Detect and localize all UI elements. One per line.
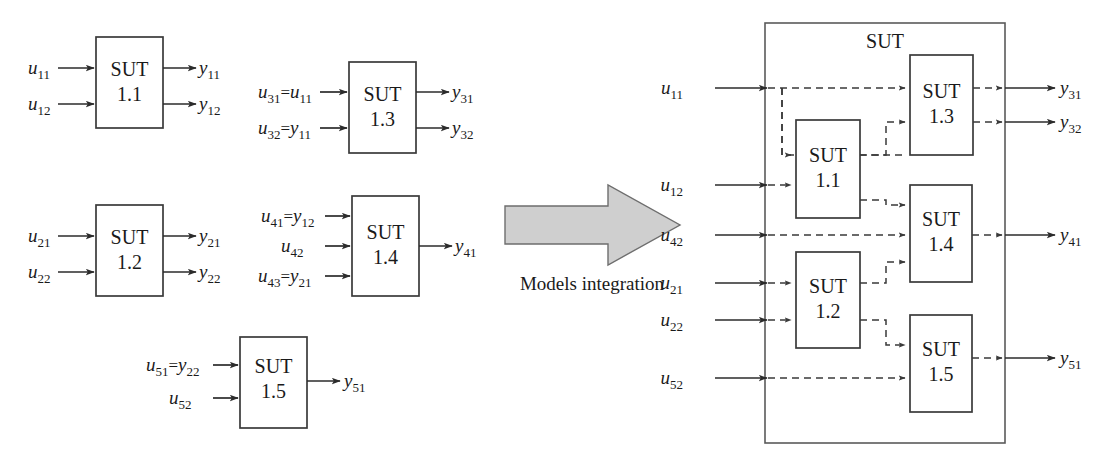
block-label-name: SUT <box>923 80 961 102</box>
label-output-y41: y41 <box>453 235 476 260</box>
label-out-y31: y31 <box>1058 77 1081 102</box>
block-label-name: SUT <box>111 226 149 248</box>
label-input-u41: u41=y12 <box>261 205 315 230</box>
left-block-sut-1-4[interactable]: SUT 1.4 <box>325 196 452 296</box>
label-out-y51: y51 <box>1058 347 1081 372</box>
left-block-sut-1-1[interactable]: SUT 1.1 <box>58 37 196 128</box>
label-out-y41: y41 <box>1058 224 1081 249</box>
label-input-u22: u22 <box>28 261 51 286</box>
diagram-canvas: SUT 1.1 u11 u12 y11 y12 SUT 1.3 u31=u11 … <box>0 0 1120 470</box>
left-block-sut-1-2[interactable]: SUT 1.2 <box>58 205 196 296</box>
block-label-name: SUT <box>111 58 149 80</box>
block-label-name: SUT <box>922 208 960 230</box>
block-label-name: SUT <box>367 221 405 243</box>
block-label-number: 1.1 <box>816 169 841 191</box>
integrated-block-sut-1-2[interactable]: SUT 1.2 <box>796 252 860 348</box>
label-input-u21: u21 <box>28 225 51 250</box>
block-label-number: 1.4 <box>373 246 398 268</box>
integrated-input-arrows <box>715 88 767 378</box>
label-output-y11: y11 <box>197 57 220 82</box>
block-label-name: SUT <box>809 275 847 297</box>
label-in-u11: u11 <box>661 77 683 102</box>
models-integration-arrow <box>505 185 680 265</box>
integrated-block-sut-1-3[interactable]: SUT 1.3 <box>910 55 973 155</box>
label-input-u12: u12 <box>28 93 51 118</box>
label-out-y32: y32 <box>1058 111 1081 136</box>
label-in-u12: u12 <box>661 174 684 199</box>
label-input-u52: u52 <box>169 387 192 412</box>
left-block-sut-1-3[interactable]: SUT 1.3 <box>320 62 449 153</box>
block-label-number: 1.3 <box>370 108 395 130</box>
left-block-sut-1-5[interactable]: SUT 1.5 <box>213 337 340 428</box>
block-label-number: 1.5 <box>261 380 286 402</box>
block-label-number: 1.2 <box>816 300 841 322</box>
models-integration-caption: Models integration <box>520 273 665 294</box>
block-label-name: SUT <box>255 355 293 377</box>
integrated-block-sut-1-4[interactable]: SUT 1.4 <box>910 185 972 282</box>
label-input-u43: u43=y21 <box>258 265 312 290</box>
label-input-u31: u31=u11 <box>258 81 312 106</box>
integrated-block-sut-1-1[interactable]: SUT 1.1 <box>796 120 860 218</box>
label-in-u22: u22 <box>661 309 684 334</box>
label-output-y21: y21 <box>197 225 220 250</box>
label-output-y31: y31 <box>450 81 473 106</box>
block-label-name: SUT <box>922 338 960 360</box>
label-input-u11: u11 <box>28 57 50 82</box>
label-input-u42: u42 <box>281 235 304 260</box>
label-in-u52: u52 <box>661 367 684 392</box>
block-label-number: 1.4 <box>929 233 954 255</box>
label-output-y12: y12 <box>197 93 220 118</box>
label-output-y51: y51 <box>342 370 365 395</box>
diagram-svg: SUT 1.1 u11 u12 y11 y12 SUT 1.3 u31=u11 … <box>0 0 1120 470</box>
label-output-y32: y32 <box>450 117 473 142</box>
block-label-number: 1.5 <box>929 363 954 385</box>
label-input-u32: u32=y11 <box>258 117 311 142</box>
block-label-number: 1.3 <box>929 105 954 127</box>
block-label-name: SUT <box>364 83 402 105</box>
integrated-output-arrows <box>1005 88 1055 358</box>
block-label-number: 1.1 <box>117 83 142 105</box>
label-input-u51: u51=y22 <box>146 354 200 379</box>
block-label-number: 1.2 <box>117 251 142 273</box>
integrated-block-sut-1-5[interactable]: SUT 1.5 <box>910 315 972 412</box>
integrated-sut-label: SUT <box>866 30 904 52</box>
label-output-y22: y22 <box>197 261 220 286</box>
block-label-name: SUT <box>809 144 847 166</box>
